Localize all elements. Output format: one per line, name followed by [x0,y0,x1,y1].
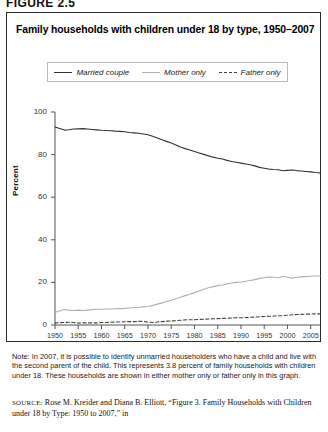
legend-label-father-only: Father only [241,68,281,77]
source-citation: Rose M. Kreider and Diana B. Elliott, “F… [12,398,311,418]
chart-source: SOURCE: Rose M. Kreider and Diana B. Ell… [12,398,322,419]
legend-label-mother-only: Mother only [164,68,206,77]
legend-item-father-only: Father only [219,68,281,77]
chart-title: Family households with children under 18… [16,24,314,35]
legend-item-married-couple: Married couple [54,68,129,77]
source-tag: SOURCE: [12,399,43,406]
chart-legend: Married couple Mother only Father only [47,62,288,82]
figure-number-label: FIGURE 2.5 [6,0,75,8]
legend-label-married-couple: Married couple [76,68,129,77]
legend-item-mother-only: Mother only [142,68,206,77]
chart-note: Note: In 2007, it is possible to identif… [12,352,320,380]
y-axis-label: Percent [11,165,20,196]
